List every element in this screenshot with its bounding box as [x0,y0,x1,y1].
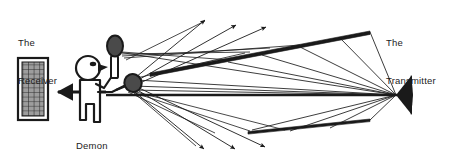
label-demon: Demon [76,140,108,153]
demon-eye [90,62,96,66]
racket-upper-handle [111,56,118,78]
label-receiver-line2: Receiver [18,75,57,88]
racket-scatter-rays [122,21,300,146]
racket-lower-head [121,71,144,94]
label-transmitter-line1: The [386,37,436,50]
racket-upper-head [107,36,123,57]
label-transmitter-line2: Transmitter [386,75,436,88]
demon-body [80,80,100,122]
label-the-transmitter: The Transmitter [386,12,436,112]
demon-nose [98,64,108,72]
label-the-receiver: The Receiver [18,12,57,112]
scattering-diagram: The Receiver The Transmitter Demon [0,0,460,167]
ray-bundle-transmitter [118,32,396,131]
demon-head [76,56,100,80]
label-receiver-line1: The [18,37,57,50]
scattered-rays-down [130,88,265,149]
